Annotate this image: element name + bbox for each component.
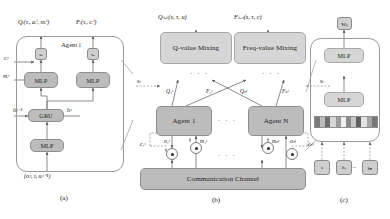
hidden-prev-label: hᵢᵗ⁻¹	[13, 107, 22, 113]
agent-n-f-label: Fₙᵗ	[282, 88, 288, 94]
agent-n-q-label: Qₙᵗ	[240, 88, 247, 94]
agent-1-f-label: F₁ᵗ	[206, 88, 212, 94]
hn-input-chip: hₙ	[362, 160, 378, 175]
merge-op-agent1-right	[190, 142, 202, 154]
q-head-output-label: Qᵢ(τᵢ, aᵢᵗ, mᵢᵗ)	[18, 18, 49, 25]
f-head-output-label: Fᵢ(τᵢ, cᵢᵗ)	[76, 18, 96, 25]
agent-1-obs-label: o₁ᵗ	[164, 138, 170, 144]
input-m-label: mᵢᵗ	[3, 73, 9, 79]
q-tot-output-label: Qₜₒₜ(s, τ, u)	[158, 13, 187, 20]
panel-a-label: (a)	[60, 194, 68, 202]
inputs-ellipsis: –	[353, 164, 356, 170]
mlp-encoder: MLP	[30, 139, 64, 152]
q-value-mixing-box: Q-value Mixing	[160, 32, 232, 64]
merge-op-agent1-left	[166, 148, 178, 160]
agent-1-q-label: Q₁ᵗ	[166, 88, 173, 94]
gru-module: GRU	[28, 109, 64, 122]
mixer-ellipsis-left: · · ·	[190, 70, 209, 78]
mlp-f-head: MLP	[76, 72, 110, 88]
agents-ellipsis: · · ·	[218, 117, 237, 125]
merge-op-agentn-right	[286, 148, 298, 160]
f-tot-output-label: Fₜₒₜ(s, τ, c)	[234, 13, 262, 20]
state-input-chip: s	[314, 160, 330, 175]
h1-input-chip: h₁	[336, 160, 352, 175]
hypernet-mlp-bottom: MLP	[324, 92, 364, 107]
freq-value-mixing-box: Freq-value Mixing	[234, 32, 306, 64]
softmax-gate-left: sₐ	[35, 48, 47, 60]
agent-n-obs-label: oₙᵗ	[290, 138, 296, 144]
hidden-next-label: hᵢᵗ	[67, 107, 72, 113]
agent-n-msg-label: mₙᵗ	[272, 138, 279, 144]
agent-n-code-label: cₙᵗ	[308, 141, 313, 147]
merge-op-agentn-left	[262, 142, 274, 154]
embedding-strip	[314, 116, 378, 128]
softmax-gate-right: sₐ	[87, 48, 99, 60]
figure-canvas: Qᵢ(τᵢ, aᵢᵗ, mᵢᵗ) Fᵢ(τᵢ, cᵢᵗ) Agent i sₐ …	[0, 0, 390, 219]
agent-input-tuple-label: (oᵢᵗ, i, uᵢᵗ⁻¹)	[24, 172, 50, 179]
mixer-ellipsis-right: · · ·	[262, 70, 281, 78]
panel-b-label: (b)	[212, 196, 220, 204]
state-input-left-label: sₜ	[137, 78, 141, 84]
channel-ellipsis: · · ·	[218, 152, 237, 160]
agent-n-box: Agent N	[248, 106, 304, 136]
mlp-q-head: MLP	[24, 72, 58, 88]
agent-1-msg-label: m₁ᵗ	[200, 138, 207, 144]
agent-i-title: Agent i	[50, 39, 92, 49]
input-c-label: cᵢᵗ	[4, 55, 8, 61]
weight-output-chip: Wₖ	[337, 17, 352, 30]
agent-1-box: Agent 1	[156, 106, 212, 136]
hypernet-mlp-top: MLP	[324, 48, 364, 63]
agent-1-code-label: c₁ᵗ	[140, 141, 145, 147]
communication-channel-box: Communication Channel	[140, 168, 306, 190]
panel-c-label: (c)	[340, 196, 348, 204]
